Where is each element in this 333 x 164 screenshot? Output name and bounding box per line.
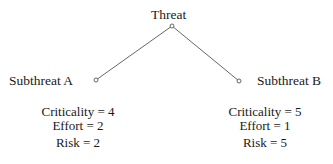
node-threat-icon [170,24,174,28]
root-label: Threat [151,8,186,22]
attack-tree-diagram: Threat Subthreat A Subthreat B Criticali… [0,0,333,164]
node-subthreat-b-icon [237,79,241,83]
subthreat-b-effort: Effort = 1 [239,119,290,132]
subthreat-a-risk: Risk = 2 [56,136,100,149]
subthreat-a-label: Subthreat A [9,74,73,88]
subthreat-a-effort: Effort = 2 [52,119,103,132]
node-subthreat-a-icon [94,78,98,82]
subthreat-b-risk: Risk = 5 [243,136,287,149]
subthreat-b-label: Subthreat B [257,74,321,88]
edge-threat-to-subthreat-b [172,26,239,81]
subthreat-a-criticality: Criticality = 4 [41,105,114,118]
edge-threat-to-subthreat-a [96,26,172,80]
subthreat-b-criticality: Criticality = 5 [228,105,301,118]
